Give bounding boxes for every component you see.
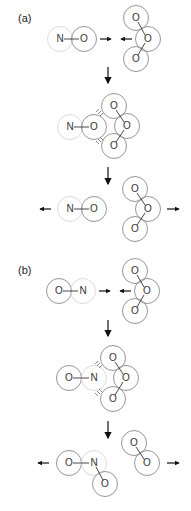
atom-o: O [101,479,109,489]
atom-o: O [130,438,138,448]
atom-o: O [65,373,73,383]
atom-o: O [144,34,152,44]
atom-o: O [132,13,140,23]
atom-o: O [110,141,118,151]
atom-o: O [131,184,139,194]
atom-n: N [90,373,97,383]
atom-o: O [123,121,131,131]
atom-o: O [131,306,139,316]
atom-o: O [143,286,151,296]
atom-o: O [110,101,118,111]
atom-o: O [143,458,151,468]
atom-o: O [55,286,63,296]
atom-n: N [66,122,73,132]
atom-o: O [131,224,139,234]
panel-b-label: (b) [18,264,31,276]
atom-o: O [131,266,139,276]
atom-o: O [90,204,98,214]
panel-a-label: (a) [18,12,31,24]
atom-o: O [90,122,98,132]
atom-o: O [65,458,73,468]
atom-n: N [56,34,63,44]
atom-n: N [66,204,73,214]
atom-o: O [109,394,117,404]
atom-o: O [109,353,117,363]
atom-n: N [90,458,97,468]
atom-n: N [79,286,86,296]
atom-o: O [132,54,140,64]
atom-o: O [122,373,130,383]
reaction-diagram [0,0,191,511]
atom-o: O [144,204,152,214]
atom-o: O [80,34,88,44]
